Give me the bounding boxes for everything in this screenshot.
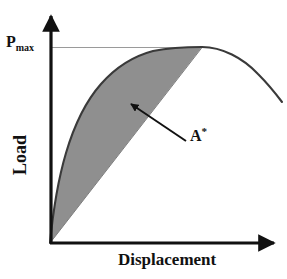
pmax-axis-label: Pmax [6,33,34,53]
x-axis-label: Displacement [118,250,216,270]
load-displacement-figure: Pmax Load Displacement A* [0,0,287,279]
y-axis-label: Load [10,135,31,175]
plot-canvas [0,0,287,279]
a-star-superscript-text: * [202,125,208,137]
pmax-base-text: P [6,33,16,50]
pmax-subscript-text: max [16,42,34,53]
a-star-base-text: A [190,127,202,144]
a-star-label: A* [190,125,207,145]
